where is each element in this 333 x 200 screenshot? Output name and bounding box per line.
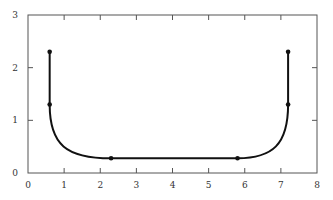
- x-tick-label: 2: [97, 180, 103, 190]
- x-tick-label: 1: [61, 180, 67, 190]
- y-tick-label: 1: [12, 115, 18, 125]
- x-tick-label: 7: [278, 180, 284, 190]
- x-tick-label: 6: [242, 180, 248, 190]
- x-tick-label: 0: [25, 180, 31, 190]
- data-point: [286, 102, 291, 107]
- data-point: [47, 50, 52, 55]
- tick-labels: 0123456780123: [12, 10, 320, 190]
- x-tick-label: 4: [170, 180, 176, 190]
- data-markers: [47, 50, 290, 161]
- x-tick-label: 3: [134, 180, 140, 190]
- x-tick-label: 5: [206, 180, 212, 190]
- chart: 0123456780123: [0, 0, 333, 200]
- y-tick-label: 0: [12, 168, 18, 178]
- x-tick-label: 8: [314, 180, 320, 190]
- data-point: [109, 156, 114, 161]
- data-point: [235, 156, 240, 161]
- y-tick-label: 2: [12, 63, 18, 73]
- data-point: [286, 50, 291, 55]
- y-tick-label: 3: [12, 10, 18, 20]
- data-point: [47, 102, 52, 107]
- data-curve: [50, 52, 288, 158]
